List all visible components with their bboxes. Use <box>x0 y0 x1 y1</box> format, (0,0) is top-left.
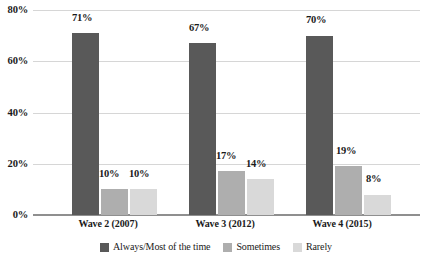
bar-wave2-rarely <box>130 189 157 215</box>
bar-wave2-sometimes <box>101 189 128 215</box>
bar-wave3-sometimes <box>218 171 245 215</box>
category-label-wave-2: Wave 2 (2007) <box>63 219 153 229</box>
value-label-wave3-rarely: 14% <box>246 159 266 170</box>
plot-area <box>33 10 420 215</box>
category-label-wave-4: Wave 4 (2015) <box>297 219 387 229</box>
legend-item-rarely[interactable]: Rarely <box>293 242 332 252</box>
value-label-wave2-sometimes: 10% <box>99 169 119 180</box>
value-label-wave2-rarely: 10% <box>129 169 149 180</box>
y-axis-tick-80: 80% <box>0 5 28 16</box>
legend-swatch-icon-always <box>100 243 109 252</box>
bar-wave3-rarely <box>247 179 274 215</box>
y-axis-tick-40: 40% <box>0 108 28 119</box>
chart-legend: Always/Most of the time Sometimes Rarely <box>0 242 432 252</box>
bar-wave4-sometimes <box>335 166 362 215</box>
legend-label-sometimes: Sometimes <box>236 242 280 252</box>
legend-item-always[interactable]: Always/Most of the time <box>100 242 210 252</box>
bar-wave2-always <box>72 33 99 215</box>
legend-label-rarely: Rarely <box>306 242 332 252</box>
value-label-wave4-sometimes: 19% <box>336 146 356 157</box>
legend-swatch-icon-sometimes <box>223 243 232 252</box>
legend-label-always: Always/Most of the time <box>113 242 210 252</box>
value-label-wave4-rarely: 8% <box>366 174 381 185</box>
y-axis-tick-60: 60% <box>0 56 28 67</box>
bar-wave4-always <box>306 36 333 215</box>
category-label-wave-3: Wave 3 (2012) <box>180 219 270 229</box>
value-label-wave3-always: 67% <box>189 23 209 34</box>
value-label-wave4-always: 70% <box>306 15 326 26</box>
gridline-80 <box>33 10 420 11</box>
legend-item-sometimes[interactable]: Sometimes <box>223 242 280 252</box>
y-axis-tick-0: 0% <box>0 210 28 221</box>
bar-chart: 80% 60% 40% 20% 0% 71% 10% 10% 67% 17% 1… <box>0 0 432 261</box>
bar-wave4-rarely <box>364 195 391 216</box>
bar-wave3-always <box>189 43 216 215</box>
legend-swatch-icon-rarely <box>293 243 302 252</box>
value-label-wave2-always: 71% <box>72 13 92 24</box>
value-label-wave3-sometimes: 17% <box>216 151 236 162</box>
y-axis-tick-20: 20% <box>0 159 28 170</box>
